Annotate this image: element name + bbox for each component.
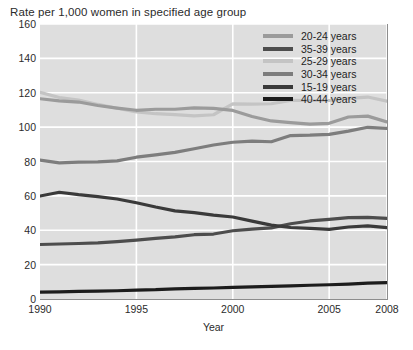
x-axis-tick-label: 1990 [28, 303, 51, 315]
x-axis-tick-label: 2005 [317, 303, 340, 315]
y-axis-tick-labels: 020406080100120140160 [0, 24, 36, 299]
legend-item-label: 25-29 years [301, 55, 356, 67]
legend-swatch-icon [263, 72, 293, 76]
y-axis-tick-label: 80 [2, 156, 36, 168]
series-line [40, 192, 387, 229]
chart-legend: 20-24 years35-39 years25-29 years30-34 y… [243, 26, 385, 110]
legend-swatch-icon [263, 85, 293, 89]
x-axis-tick-label: 1995 [125, 303, 148, 315]
x-axis-title: Year [40, 321, 387, 333]
chart-figure: Rate per 1,000 women in specified age gr… [0, 0, 413, 350]
chart-title: Rate per 1,000 women in specified age gr… [10, 6, 246, 18]
x-axis-tick-label: 2000 [221, 303, 244, 315]
y-axis-tick-label: 100 [2, 121, 36, 133]
y-axis-tick-label: 160 [2, 18, 36, 30]
legend-item-label: 30-34 years [301, 68, 356, 80]
y-axis-tick-label: 60 [2, 190, 36, 202]
y-axis-tick-label: 120 [2, 87, 36, 99]
x-axis-tick-label: 2008 [375, 303, 398, 315]
y-axis-tick-label: 20 [2, 259, 36, 271]
y-axis-tick-label: 40 [2, 224, 36, 236]
series-line [40, 127, 387, 163]
legend-item: 40-44 years [243, 93, 385, 106]
legend-item: 25-29 years [243, 55, 385, 68]
legend-item-label: 15-19 years [301, 81, 356, 93]
legend-item: 30-34 years [243, 68, 385, 81]
legend-swatch-icon [263, 97, 293, 101]
legend-swatch-icon [263, 47, 293, 51]
legend-item: 15-19 years [243, 80, 385, 93]
legend-item-label: 40-44 years [301, 93, 356, 105]
legend-item-label: 20-24 years [301, 30, 356, 42]
legend-swatch-icon [263, 59, 293, 63]
legend-item: 20-24 years [243, 30, 385, 43]
legend-item: 35-39 years [243, 43, 385, 56]
legend-item-label: 35-39 years [301, 43, 356, 55]
y-axis-tick-label: 140 [2, 52, 36, 64]
x-axis-tick-labels: 19901995200020052008 [40, 303, 387, 319]
legend-swatch-icon [263, 34, 293, 38]
series-line [40, 283, 387, 292]
